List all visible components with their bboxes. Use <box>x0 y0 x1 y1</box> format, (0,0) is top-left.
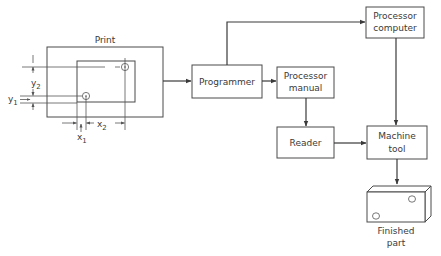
y1-label: y1 <box>8 94 18 107</box>
programmer-node: Programmer <box>192 65 262 98</box>
block-side-face <box>425 186 431 222</box>
processor-manual-node: Processor manual <box>277 67 334 98</box>
finished-part-label-2: part <box>387 238 406 248</box>
y2-label: y2 <box>31 78 41 91</box>
processor-computer-label-2: computer <box>373 23 417 33</box>
numerical-control-flow-diagram: Print y2 y1 x2 x1 Progr <box>0 0 441 256</box>
block-front-face <box>367 192 425 222</box>
machine-tool-node: Machine tool <box>367 126 427 159</box>
print-drawing: Print y2 y1 x2 x1 <box>8 35 163 145</box>
finished-part-block-icon <box>367 186 431 222</box>
programmer-label: Programmer <box>199 77 255 87</box>
finished-part-label-1: Finished <box>378 226 415 236</box>
processor-computer-label-1: Processor <box>373 11 417 21</box>
block-top-face <box>367 186 431 192</box>
machine-tool-label-1: Machine <box>378 131 416 141</box>
reader-node: Reader <box>277 127 334 158</box>
machine-tool-label-2: tool <box>388 144 405 154</box>
x2-label: x2 <box>97 119 107 132</box>
processor-manual-label-1: Processor <box>284 71 328 81</box>
arrow-programmer-to-processor-computer <box>227 22 365 65</box>
processor-manual-label-2: manual <box>289 83 323 93</box>
print-title: Print <box>95 35 116 45</box>
reader-label: Reader <box>290 138 322 148</box>
x1-label: x1 <box>77 132 87 145</box>
processor-computer-node: Processor computer <box>366 7 424 38</box>
